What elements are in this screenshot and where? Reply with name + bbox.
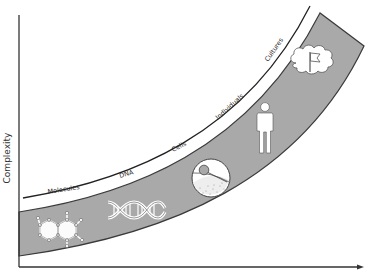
stage-label-molecules: Molecules	[47, 183, 81, 196]
cell-icon	[192, 159, 230, 197]
cloud-flag-icon	[291, 45, 333, 74]
y-axis-label: Complexity	[2, 132, 12, 184]
x-axis-arrow-icon	[357, 265, 364, 270]
stage-label-cultures: Cultures	[263, 36, 285, 63]
stage-label-dna: DNA	[118, 168, 134, 180]
complexity-diagram: Complexity Molecules DNA Cells Individua…	[0, 0, 368, 274]
